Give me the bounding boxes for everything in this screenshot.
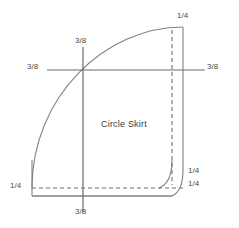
diagram-drawing <box>0 0 239 228</box>
label-bottom-right-lower: 1/4 <box>188 179 199 188</box>
label-bottom-center: 3/8 <box>75 207 86 216</box>
bottom-right-corner-arc <box>172 170 183 196</box>
circle-skirt-diagram: 1/4 3/8 3/8 3/8 1/4 1/4 1/4 3/8 Circle S… <box>0 0 239 228</box>
label-right-middle: 3/8 <box>207 62 218 71</box>
pattern-piece-name: Circle Skirt <box>101 119 147 129</box>
quarter-circle-arc <box>32 27 183 188</box>
label-left-middle: 3/8 <box>27 62 38 71</box>
bottom-right-inner-corner-arc <box>159 160 172 188</box>
label-top-center: 3/8 <box>75 36 86 45</box>
label-top-right: 1/4 <box>177 11 188 20</box>
label-bottom-right-upper: 1/4 <box>188 166 199 175</box>
label-bottom-left: 1/4 <box>10 181 21 190</box>
